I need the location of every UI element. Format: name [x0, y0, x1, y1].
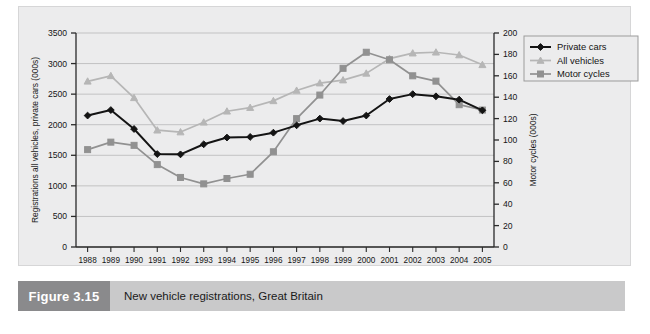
y-axis-tick-label: 2000	[48, 120, 67, 130]
figure-caption-text: New vehicle registrations, Great Britain	[110, 281, 625, 311]
x-axis-tick-label: 1998	[311, 256, 330, 265]
x-axis-tick-label: 1989	[102, 256, 121, 265]
chart-svg: 0500100015002000250030003500020406080100…	[0, 0, 650, 272]
data-point-marker	[270, 149, 276, 155]
x-axis-tick-label: 2002	[404, 256, 423, 265]
x-axis-tick-label: 2001	[380, 256, 399, 265]
y2-axis-tick-label: 100	[503, 135, 518, 145]
x-axis-tick-label: 1990	[125, 256, 144, 265]
data-point-marker	[224, 176, 230, 182]
x-axis-tick-label: 1993	[195, 256, 214, 265]
y2-axis-tick-label: 160	[503, 71, 518, 81]
data-point-marker	[154, 162, 160, 168]
y2-axis-tick-label: 80	[503, 156, 513, 166]
data-point-marker	[387, 57, 393, 63]
y-axis-tick-label: 3000	[48, 59, 67, 69]
legend-label: Motor cycles	[557, 68, 610, 79]
data-point-marker	[294, 116, 300, 122]
data-point-marker	[340, 65, 346, 71]
x-axis-tick-label: 2005	[473, 256, 492, 265]
data-point-marker	[363, 49, 369, 55]
chart-legend: Private carsAll vehiclesMotor cycles	[524, 36, 638, 81]
y2-axis-tick-label: 120	[503, 114, 518, 124]
figure-caption-bar: Figure 3.15 New vehicle registrations, G…	[18, 281, 625, 311]
y-axis-title: Registrations all vehicles, private cars…	[30, 57, 40, 223]
y2-axis-tick-label: 140	[503, 92, 518, 102]
data-point-marker	[201, 181, 207, 187]
legend-label: Private cars	[557, 41, 607, 52]
data-point-marker	[108, 139, 114, 145]
x-axis-tick-label: 1991	[148, 256, 167, 265]
y2-axis-tick-label: 200	[503, 28, 518, 38]
data-point-marker	[410, 73, 416, 79]
data-point-marker	[131, 142, 137, 148]
x-axis-tick-label: 2004	[450, 256, 469, 265]
y2-axis-tick-label: 20	[503, 221, 513, 231]
y2-axis-tick-label: 60	[503, 178, 513, 188]
figure-number: Figure 3.15	[18, 281, 110, 311]
x-axis-tick-label: 2000	[357, 256, 376, 265]
x-axis-tick-label: 1997	[288, 256, 307, 265]
data-point-marker	[247, 171, 253, 177]
y-axis-tick-label: 0	[62, 242, 67, 252]
x-axis-tick-label: 1999	[334, 256, 353, 265]
x-axis-tick-label: 1994	[218, 256, 237, 265]
legend-label: All vehicles	[557, 55, 604, 66]
x-axis-tick-label: 1992	[171, 256, 190, 265]
gridlines	[76, 33, 494, 247]
x-axis-tick-label: 1995	[241, 256, 260, 265]
y2-axis-tick-label: 180	[503, 49, 518, 59]
data-point-marker	[538, 71, 544, 77]
data-point-marker	[433, 78, 439, 84]
chart-plot-area: 0500100015002000250030003500020406080100…	[0, 0, 650, 272]
figure-container: 0500100015002000250030003500020406080100…	[0, 0, 650, 334]
data-point-marker	[178, 174, 184, 180]
x-axis-tick-label: 2003	[427, 256, 446, 265]
y-axis-tick-label: 3500	[48, 28, 67, 38]
data-point-marker	[317, 92, 323, 98]
y2-axis-title: Motor cycles (000s)	[528, 113, 538, 186]
y2-axis-tick-label: 40	[503, 199, 513, 209]
y-axis-tick-label: 500	[53, 211, 68, 221]
y2-axis-tick-label: 0	[503, 242, 508, 252]
x-axis-tick-label: 1988	[79, 256, 98, 265]
y-axis-tick-label: 1500	[48, 150, 67, 160]
x-axis-tick-label: 1996	[264, 256, 283, 265]
y-axis-tick-label: 2500	[48, 89, 67, 99]
data-point-marker	[85, 147, 91, 153]
y-axis-tick-label: 1000	[48, 181, 67, 191]
